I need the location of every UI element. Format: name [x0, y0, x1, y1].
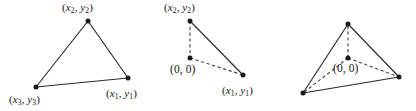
vertex-dot-bottom-right: [241, 73, 246, 78]
edge-top-to-bottomright: [190, 21, 243, 75]
label-panel2-top-vertex: (x2, y2): [164, 2, 195, 13]
vertex-dot-top: [188, 19, 193, 24]
label-panel2-bottom-right-vertex: (x1, y1): [222, 85, 253, 96]
edge-bottomleft-to-bottomright: [36, 78, 128, 87]
edge-top-to-bottomleft: [303, 24, 348, 93]
vertex-dot-bottom-left: [34, 85, 39, 90]
diagram-svg: [0, 0, 416, 111]
panel-3-triangle-interior-origin: [301, 22, 402, 96]
label-panel2-origin: (0, 0): [170, 64, 196, 76]
panel-2-triangle-origin-edge: [188, 19, 246, 78]
label-panel1-bottom-right-vertex: (x1, y1): [106, 88, 137, 99]
vertex-dot-bottom-left: [301, 91, 306, 96]
edge-top-to-bottomleft: [36, 21, 88, 87]
vertex-dot-top: [86, 19, 91, 24]
label-panel1-top-vertex: (x2, y2): [62, 2, 93, 13]
vertex-dot-bottom-right: [397, 75, 402, 80]
edge-bottomleft-to-bottomright: [303, 77, 399, 93]
panel-1-triangle: [34, 19, 131, 90]
label-panel3-origin: (0, 0): [333, 63, 359, 75]
vertex-dot-top: [346, 22, 351, 27]
vertex-dot-origin: [346, 56, 351, 61]
label-panel1-bottom-left-vertex: (x3, y3): [9, 94, 40, 105]
figure-container: (x2, y2) (x3, y3) (x1, y1) (x2, y2) (0, …: [0, 0, 416, 111]
vertex-dot-bottom-right: [126, 76, 131, 81]
edge-bottomright-to-top: [88, 21, 128, 78]
vertex-dot-origin: [188, 56, 193, 61]
